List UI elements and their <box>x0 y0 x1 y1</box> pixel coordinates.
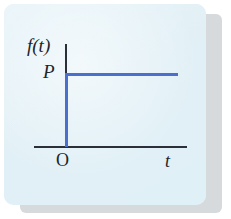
step-level-label: P <box>43 62 55 81</box>
figure-root: f(t) P O t <box>0 0 231 219</box>
x-axis-label: t <box>165 152 170 170</box>
step-plateau-segment <box>65 73 178 76</box>
y-axis-label: f(t) <box>27 36 50 55</box>
step-rise-segment <box>65 73 68 147</box>
step-function-plot: f(t) P O t <box>0 0 231 219</box>
x-axis-line <box>34 146 187 148</box>
origin-label: O <box>56 151 69 169</box>
